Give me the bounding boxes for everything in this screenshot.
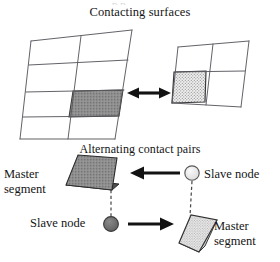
label-master-segment-right: Master segment — [214, 219, 256, 250]
master-segment-dark — [66, 155, 119, 190]
label-master-segment-right-line2: segment — [214, 234, 256, 249]
left-surface-mesh — [20, 30, 132, 139]
right-mesh-highlighted-cell — [172, 71, 206, 103]
arrow-left — [130, 167, 180, 180]
slave-node-light — [185, 166, 199, 180]
label-slave-node-right: Slave node — [204, 167, 259, 182]
arrow-right — [128, 218, 174, 231]
slave-node-dark — [104, 217, 119, 232]
label-slave-node-left: Slave node — [30, 216, 85, 231]
label-master-segment-left-line2: segment — [4, 182, 46, 197]
right-surface-mesh — [172, 41, 249, 107]
label-master-segment-right-line1: Master — [214, 219, 256, 234]
master-segment-stippled — [179, 215, 217, 252]
right-mesh-vline-1 — [206, 44, 213, 105]
right-mesh-vline-2 — [241, 41, 249, 107]
label-master-segment-left-line1: Master — [4, 167, 46, 182]
right-mesh-hline-0 — [178, 41, 249, 47]
left-mesh-vline-2 — [115, 30, 132, 139]
master-segment-dark-face — [66, 155, 117, 190]
left-mesh-highlighted-cell — [69, 90, 123, 117]
label-master-segment-left: Master segment — [4, 167, 46, 198]
left-mesh-vline-0 — [20, 41, 31, 139]
left-mesh-hline-0 — [31, 30, 132, 41]
dashed-link-bottom — [190, 181, 192, 216]
double-headed-arrow — [127, 88, 171, 99]
contact-mechanics-diagram: p p Contacting surfaces Alternating cont… — [0, 0, 280, 262]
left-mesh-vline-1 — [68, 36, 81, 139]
left-mesh-hline-1 — [29, 60, 128, 65]
